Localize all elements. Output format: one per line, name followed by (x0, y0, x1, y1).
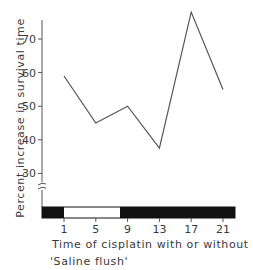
y-axis (38, 20, 46, 207)
x-tick-label: 1 (61, 223, 68, 236)
x-axis-title-line-1: Time of cisplatin with or without (51, 238, 249, 251)
x-ticks: 159131721 (61, 218, 231, 236)
x-tick-label: 13 (152, 223, 166, 236)
x-tick-label: 17 (184, 223, 198, 236)
y-tick-label: 70 (22, 33, 36, 46)
y-tick-label: 30 (22, 167, 36, 180)
y-tick-label: 60 (22, 67, 36, 80)
dark-phase-start (42, 207, 64, 218)
x-tick-label: 21 (216, 223, 230, 236)
data-series-line (64, 12, 223, 148)
x-tick-label: 9 (124, 223, 131, 236)
y-tick-label: 40 (22, 134, 36, 147)
axis-break-mark-upper (38, 183, 46, 185)
light-dark-cycle-bar (42, 207, 235, 218)
x-tick-label: 5 (92, 223, 99, 236)
y-tick-label: 50 (22, 100, 36, 113)
axis-break-mark-lower (38, 187, 46, 189)
x-axis-title-line-2: 'Saline flush' (50, 255, 128, 268)
line-chart: Percent increase in survival time 304050… (0, 0, 253, 270)
dark-phase-end (120, 207, 235, 218)
y-axis-title: Percent increase in survival time (14, 18, 27, 218)
